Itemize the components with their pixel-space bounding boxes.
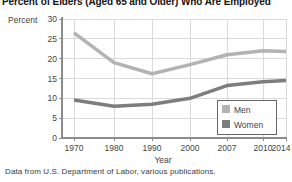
y-tick-label: 20	[48, 54, 58, 64]
y-tick-label: 30	[48, 14, 58, 24]
y-axis-title: Percent	[8, 15, 38, 25]
x-tick-label: 2007	[218, 143, 237, 153]
x-axis-title: Year	[154, 155, 171, 165]
x-tick-label: 2014	[272, 143, 291, 153]
legend-label-men: Men	[234, 105, 251, 115]
y-tick-label: 15	[48, 74, 58, 84]
legend-label-women: Women	[234, 120, 263, 130]
employment-line-chart-canvas: 0510152025301970198019902000200720102014…	[0, 0, 292, 182]
y-tick-label: 25	[48, 34, 58, 44]
employment-chart-figure: Percent of Elders (Aged 65 and Older) Wh…	[0, 0, 292, 182]
x-tick-label: 1970	[65, 143, 84, 153]
legend-swatch-men	[222, 105, 230, 113]
x-tick-label: 1990	[143, 143, 162, 153]
y-tick-label: 0	[52, 133, 57, 143]
y-tick-label: 5	[52, 113, 57, 123]
x-tick-label: 2000	[181, 143, 200, 153]
source-caption: Data from U.S. Department of Labor, vari…	[5, 167, 290, 176]
x-tick-label: 2010	[254, 143, 273, 153]
x-tick-label: 1980	[105, 143, 124, 153]
y-tick-label: 10	[48, 93, 58, 103]
legend-swatch-women	[222, 120, 230, 128]
